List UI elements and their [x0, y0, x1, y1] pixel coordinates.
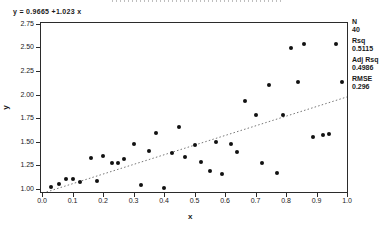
- data-point: [89, 156, 93, 160]
- x-tick-label: 0.3: [125, 197, 143, 205]
- y-tick-mark: [36, 142, 40, 143]
- y-tick-mark: [36, 165, 40, 166]
- legend-stat-label: N: [352, 18, 378, 26]
- legend-stat-value: 0.4986: [352, 64, 378, 72]
- data-point: [199, 160, 203, 164]
- legend-stat-value: 40: [352, 26, 378, 34]
- y-tick-mark: [36, 47, 40, 48]
- data-point: [177, 125, 181, 129]
- legend-item-adj-rsq: Adj Rsq 0.4986: [352, 56, 378, 71]
- legend-stat-label: RMSE: [352, 75, 378, 83]
- data-point: [71, 177, 75, 181]
- data-point: [321, 133, 325, 137]
- x-tick-label: 0.9: [308, 197, 326, 205]
- plot-frame: [40, 22, 348, 193]
- y-tick-label: 1.25: [12, 161, 34, 169]
- x-tick-label: 0.5: [186, 197, 204, 205]
- y-tick-label: 1.75: [12, 114, 34, 122]
- x-axis-label: x: [188, 212, 192, 221]
- y-tick-label: 2.00: [12, 91, 34, 99]
- cropped-title-remnant: [112, 0, 282, 2]
- x-tick-label: 0.1: [64, 197, 82, 205]
- x-tick-label: 0.4: [155, 197, 173, 205]
- legend-stat-label: Rsq: [352, 37, 378, 45]
- data-point: [147, 149, 151, 153]
- y-tick-label: 2.75: [12, 20, 34, 28]
- x-tick-label: 0.2: [94, 197, 112, 205]
- data-point: [57, 182, 61, 186]
- data-point: [101, 154, 105, 158]
- data-point: [327, 132, 331, 136]
- data-point: [275, 171, 279, 175]
- data-point: [254, 113, 258, 117]
- legend-item-n: N 40: [352, 18, 378, 33]
- legend-stat-value: 0.296: [352, 83, 378, 91]
- x-tick-label: 0.7: [247, 197, 265, 205]
- x-tick-label: 1.0: [338, 197, 356, 205]
- y-tick-mark: [36, 118, 40, 119]
- y-tick-mark: [36, 24, 40, 25]
- y-tick-mark: [36, 189, 40, 190]
- data-point: [220, 172, 224, 176]
- x-tick-label: 0.8: [277, 197, 295, 205]
- y-tick-label: 1.00: [12, 185, 34, 193]
- y-tick-label: 2.25: [12, 67, 34, 75]
- data-point: [193, 143, 197, 147]
- data-point: [132, 142, 136, 146]
- x-tick-label: 0.6: [216, 197, 234, 205]
- y-tick-label: 2.50: [12, 43, 34, 51]
- legend-stat-value: 0.5115: [352, 45, 378, 53]
- data-point: [243, 99, 247, 103]
- data-point: [162, 186, 166, 190]
- x-tick-label: 0.0: [33, 197, 51, 205]
- legend-item-rmse: RMSE 0.296: [352, 75, 378, 90]
- fit-statistics-legend: N 40 Rsq 0.5115 Adj Rsq 0.4986 RMSE 0.29…: [352, 18, 378, 94]
- legend-item-rsq: Rsq 0.5115: [352, 37, 378, 52]
- legend-stat-label: Adj Rsq: [352, 56, 378, 64]
- regression-equation-label: y = 0.9665 +1.023 x: [13, 8, 81, 15]
- y-tick-mark: [36, 71, 40, 72]
- y-tick-mark: [36, 95, 40, 96]
- data-point: [229, 142, 233, 146]
- y-axis-label: y: [1, 105, 10, 109]
- y-tick-label: 1.50: [12, 138, 34, 146]
- scatter-plot-figure: y = 0.9665 +1.023 x y x N 40 Rsq 0.5115 …: [0, 0, 382, 231]
- regression-line: [41, 23, 347, 192]
- data-point: [116, 161, 120, 165]
- data-point: [170, 151, 174, 155]
- data-point: [208, 169, 212, 173]
- data-point: [214, 140, 218, 144]
